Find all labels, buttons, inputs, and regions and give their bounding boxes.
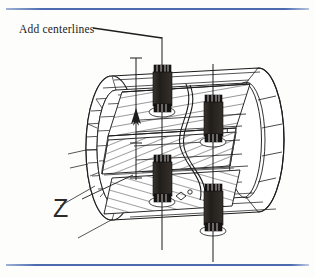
- bolt-bottom-left: [153, 155, 172, 202]
- drawing-page: Add centerlines Z: [0, 0, 315, 277]
- bolt-top-right: [204, 95, 223, 142]
- bolt-bottom-right: [204, 184, 223, 231]
- bottom-rule: [6, 264, 309, 266]
- annotation-add-centerlines: Add centerlines: [19, 23, 95, 35]
- section-plane-upper: [108, 84, 250, 136]
- leader-add-centerlines: [93, 28, 162, 38]
- technical-drawing-canvas: [0, 0, 315, 277]
- annotation-z-label: Z: [53, 196, 68, 221]
- bolt-top-left: [153, 65, 172, 112]
